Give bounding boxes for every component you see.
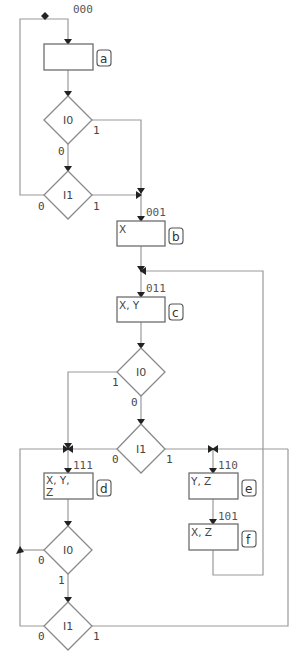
svg-text:I1: I1 — [136, 443, 146, 456]
svg-text:b: b — [172, 230, 180, 244]
svg-text:101: 101 — [218, 510, 238, 523]
svg-text:0: 0 — [58, 145, 65, 158]
svg-text:a: a — [100, 52, 107, 66]
decision-d-i0: I0 0 1 — [38, 526, 92, 587]
state-f: 101 X, Z f — [189, 510, 256, 550]
svg-text:X, Y: X, Y — [119, 299, 140, 311]
svg-text:1: 1 — [166, 453, 173, 466]
svg-text:110: 110 — [218, 459, 238, 472]
svg-text:001: 001 — [146, 206, 166, 219]
svg-text:e: e — [245, 482, 252, 496]
svg-text:X: X — [119, 223, 126, 235]
state-c: 011 X, Y c — [117, 282, 183, 322]
svg-text:1: 1 — [112, 376, 119, 389]
state-b: 001 X b — [117, 206, 183, 246]
svg-text:011: 011 — [146, 282, 166, 295]
asm-chart: 000 a I0 1 0 I1 0 1 001 X b 011 X, Y c I… — [0, 0, 305, 668]
svg-text:0: 0 — [131, 396, 138, 409]
decision-d-i1: I1 0 1 — [38, 602, 100, 650]
state-d: 111 X, Y, Z d — [44, 459, 111, 499]
svg-text:Y, Z: Y, Z — [190, 475, 211, 487]
svg-text:1: 1 — [93, 630, 100, 643]
svg-text:I1: I1 — [63, 620, 73, 633]
decision-a-i1: I1 0 1 — [38, 171, 100, 219]
svg-text:X, Y,: X, Y, — [46, 474, 70, 486]
svg-text:I0: I0 — [136, 366, 146, 379]
svg-text:0: 0 — [112, 453, 119, 466]
svg-text:I1: I1 — [63, 189, 73, 202]
svg-text:0: 0 — [38, 630, 45, 643]
svg-text:0: 0 — [38, 200, 45, 213]
svg-text:Z: Z — [46, 486, 53, 498]
state-e: 110 Y, Z e — [189, 459, 256, 499]
svg-text:111: 111 — [73, 459, 93, 472]
svg-text:1: 1 — [58, 574, 65, 587]
svg-text:1: 1 — [93, 200, 100, 213]
svg-text:0: 0 — [38, 554, 45, 567]
svg-text:I0: I0 — [63, 544, 73, 557]
svg-text:c: c — [172, 306, 179, 320]
decision-c-i1: I1 0 1 — [112, 424, 173, 473]
svg-text:X, Z: X, Z — [191, 526, 212, 538]
state-a: 000 a — [44, 3, 111, 70]
decision-c-i0: I0 1 0 — [112, 348, 165, 409]
svg-text:I0: I0 — [63, 114, 73, 127]
svg-text:d: d — [100, 482, 108, 496]
svg-text:1: 1 — [93, 124, 100, 137]
decision-a-i0: I0 1 0 — [44, 96, 100, 158]
svg-text:000: 000 — [73, 3, 93, 16]
